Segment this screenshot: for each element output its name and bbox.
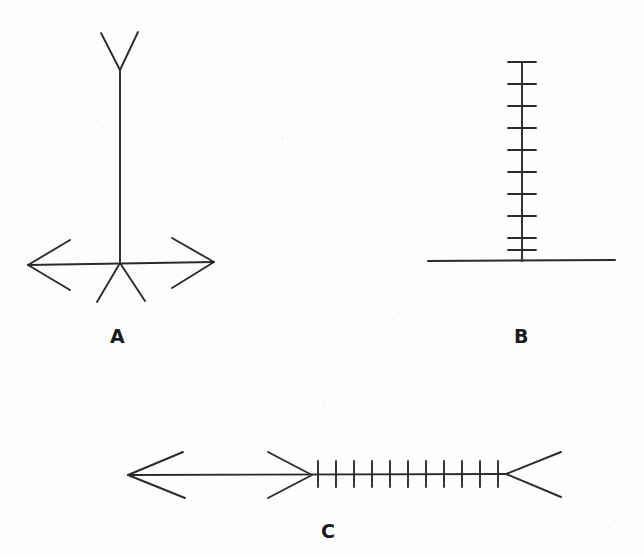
figure-a-top-fork-left-branch xyxy=(101,33,120,70)
scan-speck xyxy=(487,437,489,439)
scan-speck xyxy=(409,74,411,76)
scan-speck xyxy=(323,402,325,404)
figure-a-bottom-fork-left-leg xyxy=(97,263,120,302)
figure-b-caption: B xyxy=(514,327,529,346)
scan-speck xyxy=(466,187,468,189)
figure-c-main-shaft xyxy=(128,474,506,475)
scan-speck xyxy=(604,96,606,98)
figure-page: A B C xyxy=(0,0,644,557)
scan-speck xyxy=(281,137,284,140)
scan-speck xyxy=(392,318,394,320)
scan-speck xyxy=(300,240,302,242)
figure-a-bottom-fork-right-leg xyxy=(120,263,145,301)
figure-b xyxy=(428,62,615,261)
scan-speck xyxy=(252,56,254,58)
scan-speck xyxy=(560,325,562,327)
figure-a-top-fork-right-branch xyxy=(120,32,138,70)
scan-speck xyxy=(540,60,542,62)
scan-speck xyxy=(36,350,38,352)
scan-speck xyxy=(128,183,130,185)
scan-speck xyxy=(96,120,98,122)
scan-speck xyxy=(175,380,177,382)
figure-a xyxy=(28,32,214,302)
figure-c-right-fletching xyxy=(506,452,561,497)
figure-c-caption: C xyxy=(321,522,335,541)
scan-speck xyxy=(221,470,223,472)
scan-speck xyxy=(41,27,43,29)
figure-canvas xyxy=(0,0,644,557)
figure-c xyxy=(128,452,561,498)
scan-speck xyxy=(596,402,598,404)
scan-speck xyxy=(60,436,62,438)
scan-speck xyxy=(614,520,616,522)
figure-b-baseline xyxy=(428,260,615,261)
figure-a-caption: A xyxy=(110,327,125,346)
